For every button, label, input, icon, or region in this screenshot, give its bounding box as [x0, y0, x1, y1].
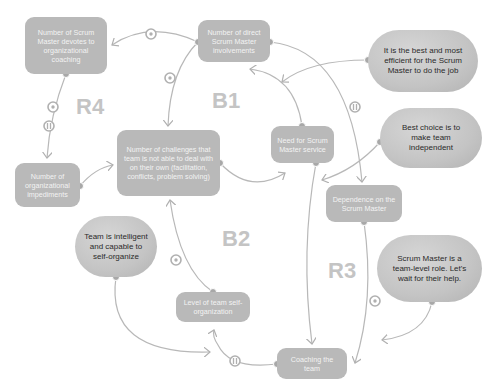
node-need-service[interactable]: Need for Scrum Master service: [271, 126, 334, 163]
belief-team-level-role[interactable]: Scrum Master is a team-level role. Let's…: [377, 235, 482, 302]
node-dependence[interactable]: Dependence on the Scrum Master: [326, 185, 402, 222]
belief-team-intelligent[interactable]: Team is intelligent and capable to self-…: [75, 216, 157, 277]
node-org-impediments[interactable]: Number of organizational impediments: [15, 163, 80, 207]
loop-label-r4: R4: [76, 94, 104, 120]
loop-label-b2: B2: [222, 226, 250, 252]
belief-make-independent[interactable]: Best choice is to make team independent: [380, 108, 482, 168]
belief-best-efficient[interactable]: It is the best and most efficient for th…: [368, 30, 478, 92]
loop-label-b1: B1: [212, 88, 240, 114]
node-challenges[interactable]: Number of challenges that team is not ab…: [117, 130, 220, 196]
node-direct-involvements[interactable]: Number of direct Scrum Master involvemen…: [198, 20, 270, 62]
node-org-coaching[interactable]: Number of Scrum Master devotes to organi…: [25, 17, 107, 74]
node-coaching[interactable]: Coaching the team: [277, 348, 347, 379]
loop-label-r3: R3: [328, 258, 356, 284]
node-self-organization[interactable]: Level of team self-organization: [176, 292, 250, 322]
